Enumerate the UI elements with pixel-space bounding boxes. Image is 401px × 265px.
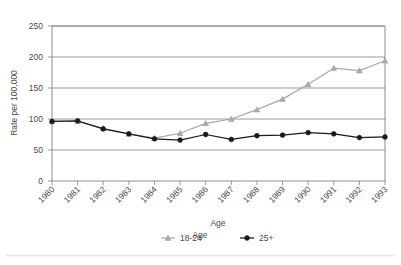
data-point — [126, 131, 131, 136]
y-tick-label: 150 — [29, 83, 43, 93]
data-point — [255, 133, 260, 138]
y-tick-label: 250 — [29, 21, 43, 31]
data-point — [280, 133, 285, 138]
y-axis-title: Rate per 100,000 — [9, 70, 19, 136]
y-tick-label: 0 — [38, 176, 43, 186]
legend-label: 18-24 — [180, 233, 202, 243]
legend-label: 25+ — [259, 233, 273, 243]
chart-figure: 050100150200250 198019811982198319841985… — [0, 0, 401, 265]
data-point — [101, 127, 106, 132]
data-point — [152, 136, 157, 141]
line-chart-svg: 050100150200250 198019811982198319841985… — [0, 0, 401, 265]
data-point — [331, 131, 336, 136]
data-point — [203, 132, 208, 137]
data-point — [383, 135, 388, 140]
chart-background — [0, 0, 401, 265]
y-tick-label: 50 — [34, 145, 44, 155]
data-point — [306, 130, 311, 135]
data-point — [357, 135, 362, 140]
y-tick-label: 100 — [29, 114, 43, 124]
y-tick-label: 200 — [29, 52, 43, 62]
data-point — [75, 118, 80, 123]
legend-swatch-marker — [245, 236, 250, 241]
data-point — [229, 137, 234, 142]
data-point — [50, 119, 55, 124]
x-axis-title: Age — [210, 218, 225, 228]
data-point — [178, 138, 183, 143]
